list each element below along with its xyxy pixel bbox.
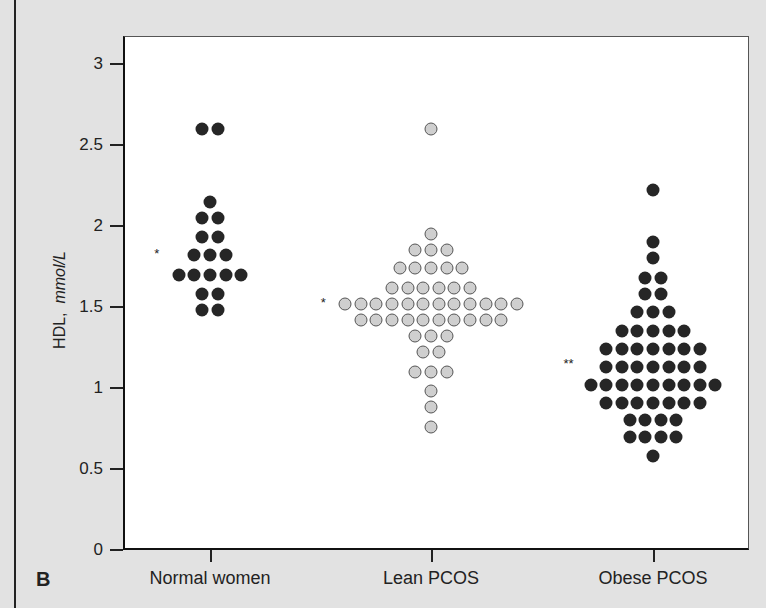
data-point-dot xyxy=(623,430,636,443)
data-point-dot xyxy=(204,268,217,281)
data-point-dot xyxy=(425,365,438,378)
data-point-dot xyxy=(339,297,352,310)
data-point-dot xyxy=(639,414,652,427)
data-point-dot xyxy=(495,297,508,310)
data-point-dot xyxy=(479,313,492,326)
data-point-dot xyxy=(647,252,660,265)
data-point-dot xyxy=(409,365,422,378)
data-point-dot xyxy=(693,378,706,391)
data-point-dot xyxy=(417,297,430,310)
y-tick-label: 2.5 xyxy=(79,135,103,155)
data-point-dot xyxy=(204,249,217,262)
data-point-dot xyxy=(440,330,453,343)
y-tick-mark xyxy=(110,468,123,470)
data-point-dot xyxy=(425,401,438,414)
data-point-dot xyxy=(584,378,597,391)
data-point-dot xyxy=(615,325,628,338)
data-point-dot xyxy=(600,396,613,409)
data-point-dot xyxy=(639,430,652,443)
data-point-dot xyxy=(370,313,383,326)
y-tick-label: 1.5 xyxy=(79,297,103,317)
data-point-dot xyxy=(211,122,224,135)
data-point-dot xyxy=(495,313,508,326)
y-tick-mark xyxy=(110,387,123,389)
data-point-dot xyxy=(370,297,383,310)
data-point-dot xyxy=(600,343,613,356)
data-point-dot xyxy=(639,271,652,284)
data-point-dot xyxy=(401,281,414,294)
data-point-dot xyxy=(417,281,430,294)
data-point-dot xyxy=(678,343,691,356)
data-point-dot xyxy=(440,244,453,257)
data-point-dot xyxy=(678,396,691,409)
data-point-dot xyxy=(647,236,660,249)
data-point-dot xyxy=(654,414,667,427)
data-point-dot xyxy=(235,268,248,281)
data-point-dot xyxy=(647,325,660,338)
data-point-dot xyxy=(354,297,367,310)
data-point-dot xyxy=(386,281,399,294)
data-point-dot xyxy=(401,297,414,310)
data-point-dot xyxy=(172,268,185,281)
data-point-dot xyxy=(662,343,675,356)
data-point-dot xyxy=(647,378,660,391)
data-point-dot xyxy=(647,305,660,318)
data-point-dot xyxy=(219,268,232,281)
data-point-dot xyxy=(647,450,660,463)
data-point-dot xyxy=(678,378,691,391)
y-tick-mark xyxy=(110,549,123,551)
data-point-dot xyxy=(440,262,453,275)
data-point-dot xyxy=(432,346,445,359)
data-point-dot xyxy=(654,271,667,284)
y-tick-label: 3 xyxy=(94,54,103,74)
data-point-dot xyxy=(196,288,209,301)
data-point-dot xyxy=(615,360,628,373)
y-tick-mark xyxy=(110,225,123,227)
data-point-dot xyxy=(631,360,644,373)
data-point-dot xyxy=(662,360,675,373)
x-category-label: Obese PCOS xyxy=(598,568,707,589)
y-tick-label: 0.5 xyxy=(79,459,103,479)
data-point-dot xyxy=(647,396,660,409)
data-point-dot xyxy=(425,228,438,241)
data-point-dot xyxy=(188,249,201,262)
data-point-dot xyxy=(464,313,477,326)
y-tick-label: 1 xyxy=(94,378,103,398)
data-point-dot xyxy=(448,313,461,326)
data-point-dot xyxy=(639,288,652,301)
data-point-dot xyxy=(510,297,523,310)
data-point-dot xyxy=(654,430,667,443)
data-point-dot xyxy=(693,343,706,356)
significance-marker: ** xyxy=(564,356,574,371)
x-tick-mark xyxy=(210,550,212,562)
data-point-dot xyxy=(709,378,722,391)
data-point-dot xyxy=(409,262,422,275)
data-point-dot xyxy=(211,211,224,224)
data-point-dot xyxy=(401,313,414,326)
data-point-dot xyxy=(211,288,224,301)
data-point-dot xyxy=(479,297,492,310)
data-point-dot xyxy=(440,365,453,378)
data-point-dot xyxy=(678,360,691,373)
significance-marker: * xyxy=(321,294,326,309)
data-point-dot xyxy=(432,281,445,294)
data-point-dot xyxy=(631,343,644,356)
data-point-dot xyxy=(464,281,477,294)
data-point-dot xyxy=(354,313,367,326)
x-category-label: Normal women xyxy=(149,568,270,589)
data-point-dot xyxy=(432,297,445,310)
data-point-dot xyxy=(631,378,644,391)
y-tick-label: 0 xyxy=(94,540,103,560)
data-point-dot xyxy=(600,378,613,391)
data-point-dot xyxy=(662,378,675,391)
data-point-dot xyxy=(219,249,232,262)
data-point-dot xyxy=(196,122,209,135)
data-point-dot xyxy=(386,313,399,326)
data-point-dot xyxy=(417,346,430,359)
data-point-dot xyxy=(693,396,706,409)
significance-marker: * xyxy=(154,246,159,261)
data-point-dot xyxy=(623,414,636,427)
data-point-dot xyxy=(196,231,209,244)
data-point-dot xyxy=(662,396,675,409)
data-point-dot xyxy=(456,262,469,275)
